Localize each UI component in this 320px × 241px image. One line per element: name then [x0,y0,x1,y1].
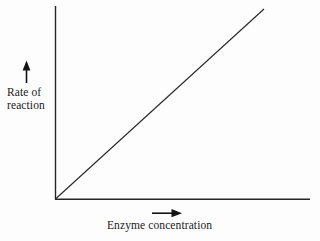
up-arrow-icon [23,61,31,84]
graph-canvas [0,0,320,241]
x-axis-label: Enzyme concentration [107,219,212,232]
y-axis-label-line2: reaction [7,99,45,112]
enzyme-concentration-graph-figure: Rate of reaction Enzyme concentration [0,0,320,241]
right-arrow-icon [152,209,182,217]
y-axis-label: Rate of reaction [7,86,45,111]
y-axis-label-line1: Rate of [7,86,45,99]
data-line-proportional [56,9,264,199]
